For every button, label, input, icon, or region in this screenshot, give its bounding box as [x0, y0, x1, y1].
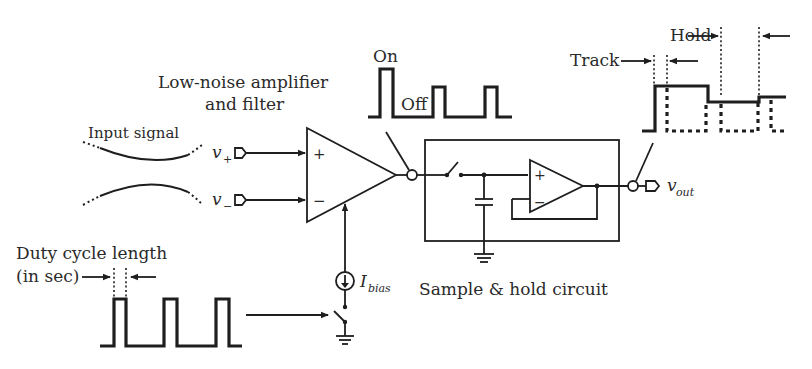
bias-ground-icon [336, 336, 354, 344]
amplifier-label-line2: and filter [205, 94, 285, 114]
amp-minus-sign: − [313, 192, 326, 210]
sample-hold-label: Sample & hold circuit [419, 279, 608, 299]
circuit-diagram: Low-noise amplifier and filter Input sig… [0, 0, 812, 369]
i-bias-subscript: bias [368, 282, 391, 295]
amplifier-label-line1: Low-noise amplifier [158, 72, 329, 92]
output-node [628, 181, 638, 191]
track-label: Track [570, 50, 620, 70]
sampled-input-waveform [667, 88, 786, 131]
amp-output-node [407, 170, 417, 180]
hold-capacitor-icon [475, 199, 493, 205]
off-label: Off [401, 94, 429, 114]
v-out-subscript: out [676, 186, 695, 199]
input-signal-waveforms [83, 142, 203, 205]
on-off-waveform [368, 69, 512, 117]
buffer-plus-sign: + [534, 167, 546, 183]
duty-cycle-label-line2: (in sec) [16, 266, 79, 286]
amp-plus-sign: + [313, 145, 326, 163]
i-bias-label: I [359, 271, 367, 291]
v-minus-subscript: − [223, 200, 232, 213]
duty-cycle-label-line1: Duty cycle length [16, 243, 167, 263]
duty-cycle-waveform [100, 299, 242, 346]
v-plus-terminal-icon [235, 148, 246, 158]
sample-switch-icon [447, 162, 458, 175]
v-plus-subscript: + [223, 153, 232, 166]
output-switch-icon [636, 143, 653, 181]
hold-label: Hold [670, 25, 711, 45]
v-out-terminal-icon [646, 181, 659, 191]
bias-switch-icon [334, 311, 345, 322]
amp-output-switch-icon [386, 132, 409, 170]
sample-hold-box [425, 140, 619, 241]
v-plus-label: v [212, 142, 222, 162]
on-label: On [373, 46, 398, 66]
sh-ground-icon [474, 254, 494, 262]
v-minus-terminal-icon [235, 195, 246, 205]
track-hold-output-waveform [642, 86, 786, 131]
v-minus-label: v [212, 189, 222, 209]
input-signal-label: Input signal [88, 124, 179, 142]
buffer-minus-sign: − [534, 194, 546, 210]
